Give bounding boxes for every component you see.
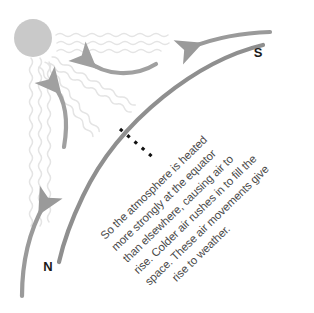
- caption-block: So the atmosphere is heated more strongl…: [98, 117, 282, 299]
- sun-icon: [14, 19, 52, 57]
- sun-ray-icon: [48, 62, 51, 222]
- sun-ray-icon: [47, 63, 132, 114]
- diagram-canvas: S N So the atmosphere is heated more str…: [0, 0, 314, 313]
- warm-air-rising-arrow-upper[interactable]: [88, 61, 156, 73]
- sun-ray-icon: [57, 50, 161, 53]
- label-south: S: [254, 45, 263, 60]
- warm-air-rising-arrow-left[interactable]: [54, 86, 66, 147]
- label-north: N: [43, 259, 52, 274]
- sun-ray-icon: [44, 61, 101, 132]
- sun-ray-icon: [39, 58, 42, 226]
- sun-ray-icon: [57, 42, 169, 45]
- sun-ray-icon: [30, 58, 33, 226]
- atmosphere-weather-diagram: S N So the atmosphere is heated more str…: [0, 0, 314, 313]
- sun-ray-icon: [56, 34, 168, 37]
